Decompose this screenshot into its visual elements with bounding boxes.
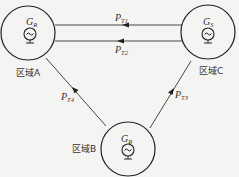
gen-c-symbol: G: [203, 16, 210, 27]
arrow-t4-icon: [72, 87, 79, 94]
flow-label-t2: PT2: [114, 44, 129, 56]
flow-label-t1: PT1: [114, 12, 128, 24]
flow-label-t3: PT3: [174, 89, 189, 101]
area-b-label: 区域B: [72, 143, 96, 154]
area-c-circle: [181, 5, 235, 59]
power-flow-diagram: GR 区域A GS 区域C GR 区域B PT1 PT2 PT4 PT3: [0, 0, 239, 177]
flow-label-t4: PT4: [60, 91, 75, 103]
arrow-t3-icon: [168, 88, 174, 95]
area-c-label: 区域C: [199, 65, 223, 76]
area-b-circle: [101, 122, 155, 176]
gen-a-symbol: G: [26, 16, 33, 27]
arrow-t2-icon: [117, 39, 124, 44]
gen-b-symbol: G: [121, 133, 128, 144]
area-a-label: 区域A: [16, 67, 41, 78]
